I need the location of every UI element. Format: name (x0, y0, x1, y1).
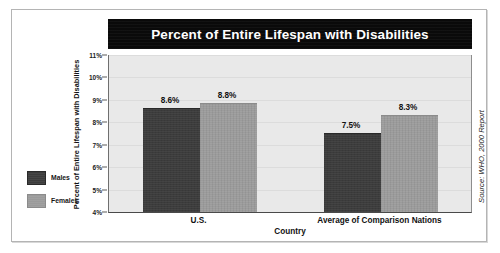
legend-label-males: Males (51, 174, 70, 181)
y-axis-tick-mark (102, 212, 107, 213)
x-axis-tick-label: Average of Comparison Nations (317, 216, 441, 225)
legend-swatch-females-icon (27, 194, 46, 208)
chart-figure: Percent of Entire Lifespan with Disabili… (11, 9, 487, 242)
y-axis-tick-label: 8% (93, 119, 102, 126)
y-axis-tick-mark (102, 99, 107, 100)
legend-swatch-males-icon (27, 171, 46, 185)
chart-title: Percent of Entire Lifespan with Disabili… (151, 27, 428, 42)
y-axis-tick-mark (102, 122, 107, 123)
bar-females-group-0 (200, 103, 257, 212)
legend-item-females: Females (27, 194, 85, 207)
gridline (109, 55, 471, 56)
y-axis-tick-mark (102, 144, 107, 145)
bar-females-group-1 (381, 115, 438, 212)
y-axis-tick-labels: 4%5%6%7%8%9%10%11% (82, 55, 107, 213)
x-axis-title: Country (108, 227, 472, 236)
bar-value-label: 7.5% (342, 121, 361, 130)
y-axis-tick-mark (102, 167, 107, 168)
bar-males-group-1 (324, 133, 381, 213)
legend-label-females: Females (51, 197, 78, 204)
y-axis-tick-label: 6% (93, 164, 102, 171)
bar-value-label: 8.8% (218, 91, 237, 100)
plot-area (108, 55, 472, 213)
gridline (109, 77, 471, 78)
chart-legend: Males Females (27, 171, 85, 217)
bar-value-label: 8.6% (161, 96, 180, 105)
y-axis-tick-label: 10% (89, 74, 102, 81)
source-note-text: Source: WHO, 2000 Report (477, 110, 486, 203)
y-axis-tick-label: 11% (89, 52, 102, 59)
source-note: Source: WHO, 2000 Report (474, 96, 488, 216)
y-axis-tick-label: 4% (93, 209, 102, 216)
y-axis-tick-label: 5% (93, 186, 102, 193)
x-axis-tick-label: U.S. (191, 216, 207, 225)
bar-males-group-0 (143, 108, 200, 212)
bar-value-label: 8.3% (399, 103, 418, 112)
chart-title-bar: Percent of Entire Lifespan with Disabili… (108, 19, 472, 49)
y-axis-tick-mark (102, 77, 107, 78)
y-axis-tick-label: 9% (93, 96, 102, 103)
y-axis-tick-mark (102, 189, 107, 190)
y-axis-tick-label: 7% (93, 141, 102, 148)
legend-item-males: Males (27, 171, 85, 184)
y-axis-tick-mark (102, 55, 107, 56)
